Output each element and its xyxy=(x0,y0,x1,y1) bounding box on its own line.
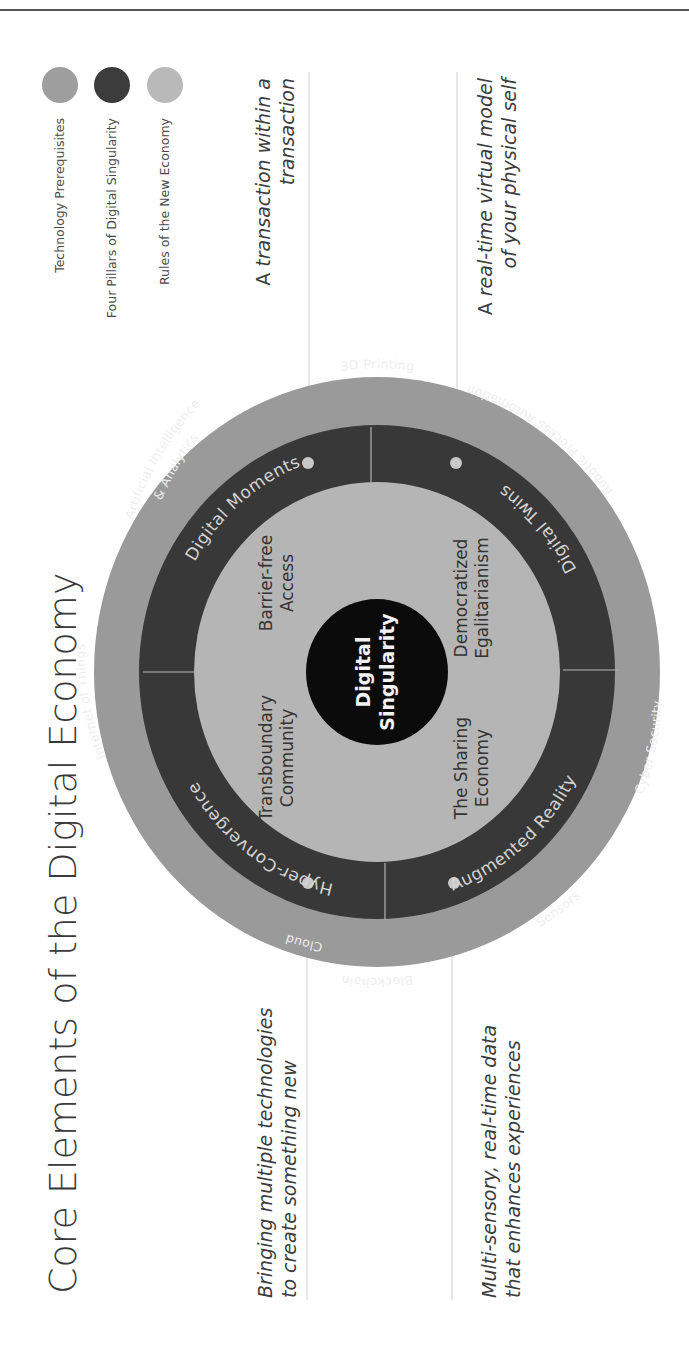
description-line: of your physical self xyxy=(498,75,520,269)
description-digital-moments: A transaction within a transaction xyxy=(252,78,298,286)
description-hyper-convergence: Bringing multiple technologies to create… xyxy=(254,1007,300,1298)
pillar-dot-digital-moments xyxy=(302,457,314,469)
rule-line: Economy xyxy=(472,729,492,807)
legend-label: Rules of the New Economy xyxy=(157,117,172,285)
description-line: to create something new xyxy=(278,1060,300,1298)
legend-swatch-technology xyxy=(42,67,78,103)
description-digital-twins: A real-time virtual model of your physic… xyxy=(474,75,520,316)
description-line: A real-time virtual model xyxy=(474,77,496,315)
rule-line: Democratized xyxy=(451,539,471,658)
legend-swatch-pillars xyxy=(94,67,130,103)
rule-line: The Sharing xyxy=(451,717,471,820)
legend-item-technology-prerequisites: Technology Prerequisites xyxy=(42,67,78,274)
description-line: A transaction within a xyxy=(252,78,274,286)
rule-line: Egalitarianism xyxy=(472,537,492,659)
core-label-line2: Singularity xyxy=(376,613,398,731)
rule-sharing-economy: The Sharing Economy xyxy=(451,717,492,820)
description-line: that enhances experiences xyxy=(502,1040,524,1298)
rule-line: Transboundary xyxy=(256,695,276,822)
rule-democratized-egalitarianism: Democratized Egalitarianism xyxy=(451,537,492,659)
digital-economy-diagram: Internet of Things Artificial Intelligen… xyxy=(73,356,665,990)
rule-line: Access xyxy=(277,554,297,612)
rule-line: Community xyxy=(277,709,297,807)
legend-item-four-pillars: Four Pillars of Digital Singularity xyxy=(94,67,130,318)
legend-label: Technology Prerequisites xyxy=(52,118,67,274)
description-line: Multi-sensory, real-time data xyxy=(478,1025,500,1298)
pillar-dot-digital-twins xyxy=(450,457,462,469)
description-line: transaction xyxy=(276,78,298,185)
description-line: Bringing multiple technologies xyxy=(254,1007,276,1298)
legend-swatch-rules xyxy=(147,67,183,103)
description-augmented-reality: Multi-sensory, real-time data that enhan… xyxy=(478,1025,524,1298)
legend-label: Four Pillars of Digital Singularity xyxy=(104,117,119,318)
legend-item-rules: Rules of the New Economy xyxy=(147,67,183,285)
rule-transboundary-community: Transboundary Community xyxy=(256,695,297,822)
core-label-line1: Digital xyxy=(352,637,374,708)
rule-line: Barrier-free xyxy=(256,535,276,632)
tech-label-blockchain: Blockchain xyxy=(340,973,414,990)
tech-label-3d-printing: 3D Printing xyxy=(340,356,416,374)
slide-canvas: Core Elements of the Digital Economy Tec… xyxy=(0,0,689,1358)
legend: Technology Prerequisites Four Pillars of… xyxy=(42,67,183,318)
